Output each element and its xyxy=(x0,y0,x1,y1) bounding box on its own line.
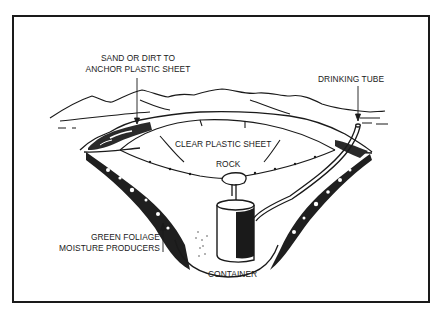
sand-stipple xyxy=(195,231,208,257)
sand-anchor-label-line1: SAND OR DIRT TO xyxy=(78,53,198,64)
foliage-label-line2: MOISTURE PRODUCERS xyxy=(30,243,160,254)
drinking-tube-label: DRINKING TUBE xyxy=(318,74,384,85)
container xyxy=(217,200,254,262)
sand-anchor-label: SAND OR DIRT TO ANCHOR PLASTIC SHEET xyxy=(78,53,198,75)
container-label: CONTAINER xyxy=(208,269,257,280)
rock xyxy=(222,173,246,200)
sand-anchor-label-line2: ANCHOR PLASTIC SHEET xyxy=(78,64,198,75)
mountain-range xyxy=(50,89,388,128)
foliage-label-line1: GREEN FOLIAGE xyxy=(30,232,160,243)
solar-still-illustration xyxy=(0,0,443,310)
plastic-sheet-label: CLEAR PLASTIC SHEET xyxy=(175,139,271,150)
foliage-label: GREEN FOLIAGE MOISTURE PRODUCERS xyxy=(30,232,160,254)
rock-label: ROCK xyxy=(216,159,240,170)
